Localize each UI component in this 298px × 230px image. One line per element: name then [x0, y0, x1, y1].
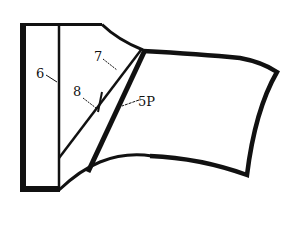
top-right-curve	[102, 25, 143, 51]
label-7: 7	[94, 49, 117, 70]
bottom-curve	[59, 155, 152, 190]
leader-6	[46, 75, 57, 82]
label-5p: 5P	[122, 94, 155, 109]
diagram-canvas: 6 7 8 5P	[0, 0, 298, 230]
svg-text:8: 8	[73, 84, 81, 99]
leader-7	[103, 59, 117, 70]
left-panel	[20, 23, 143, 192]
label-8: 8	[73, 84, 96, 108]
svg-text:5P: 5P	[138, 94, 155, 109]
right-flap	[143, 51, 277, 175]
leader-8	[83, 98, 96, 108]
svg-text:7: 7	[94, 49, 102, 64]
svg-text:6: 6	[36, 66, 44, 81]
label-6: 6	[36, 66, 57, 82]
leader-5p	[122, 100, 139, 106]
